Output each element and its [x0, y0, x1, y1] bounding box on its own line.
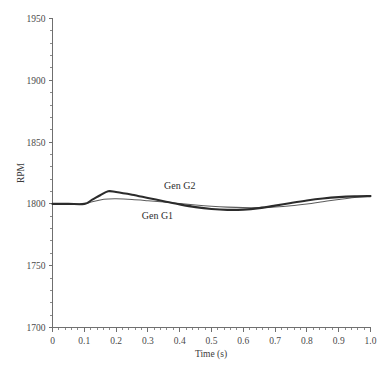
y-tick-label: 1950	[27, 14, 46, 24]
y-axis-title: RPM	[16, 162, 26, 183]
x-tick-label: 0.9	[333, 336, 345, 346]
y-tick-label: 1750	[27, 261, 46, 271]
y-tick-label: 1800	[27, 199, 46, 209]
x-tick-label: 0.4	[174, 336, 186, 346]
x-axis-title: Time (s)	[195, 349, 227, 360]
line-chart: 170017501800185019001950 00.10.20.30.40.…	[0, 0, 391, 374]
x-tick-label: 0.2	[110, 336, 122, 346]
series-label-gen-g1: Gen G1	[142, 210, 173, 221]
x-tick-label: 0.7	[269, 336, 281, 346]
x-axis-tick-labels: 00.10.20.30.40.50.60.70.80.91.0	[50, 336, 377, 346]
x-tick-label: 1.0	[365, 336, 377, 346]
chart-figure: 170017501800185019001950 00.10.20.30.40.…	[0, 0, 391, 374]
x-tick-label: 0.3	[142, 336, 154, 346]
y-axis-tick-labels: 170017501800185019001950	[27, 14, 46, 333]
y-tick-label: 1850	[27, 138, 46, 148]
series-line-gen-g2	[53, 191, 371, 210]
x-tick-label: 0.5	[206, 336, 218, 346]
x-tick-label: 0.6	[237, 336, 249, 346]
x-tick-label: 0.8	[301, 336, 313, 346]
y-axis-major-ticks	[49, 19, 53, 328]
x-tick-label: 0	[50, 336, 55, 346]
x-axis-major-ticks	[53, 328, 371, 333]
series-label-gen-g2: Gen G2	[164, 180, 195, 191]
y-tick-label: 1900	[27, 76, 46, 86]
x-tick-label: 0.1	[78, 336, 90, 346]
y-tick-label: 1700	[27, 323, 46, 333]
